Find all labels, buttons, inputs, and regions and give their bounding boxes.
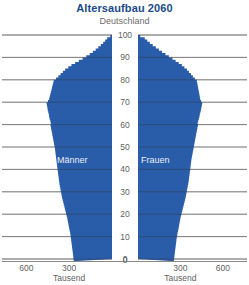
chart-subtitle: Deutschland bbox=[0, 16, 249, 27]
pyramid-svg bbox=[0, 33, 249, 261]
value-tick-1: 300 bbox=[54, 263, 84, 273]
unit-label-left: Tausend bbox=[39, 273, 99, 283]
population-pyramid-chart: Altersaufbau 2060 Deutschland 0102030405… bbox=[0, 0, 249, 285]
chart-title: Altersaufbau 2060 bbox=[0, 2, 249, 14]
bar-shape bbox=[138, 35, 202, 261]
value-tick-3: 300 bbox=[165, 263, 195, 273]
value-tick-0: 600 bbox=[11, 263, 41, 273]
value-tick-2: 0 bbox=[110, 255, 140, 265]
plot-area bbox=[0, 33, 249, 261]
unit-label-right: Tausend bbox=[150, 273, 210, 283]
series-label-frauen: Frauen bbox=[141, 155, 170, 165]
bars-maenner bbox=[47, 35, 112, 261]
center-gutter bbox=[112, 33, 138, 261]
value-axis: 6003000300600TausendTausend bbox=[0, 261, 249, 285]
bar-shape bbox=[47, 35, 112, 261]
bars-frauen bbox=[138, 35, 202, 261]
series-label-maenner: Männer bbox=[57, 155, 88, 165]
value-tick-4: 600 bbox=[208, 263, 238, 273]
